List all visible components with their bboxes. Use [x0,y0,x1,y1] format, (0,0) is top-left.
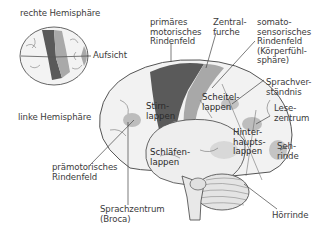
label-left-hemisphere: linke Hemisphäre [18,113,91,123]
label-view-top: Aufsicht [93,51,127,61]
label-speech-comprehension: Sprachver- ständnis [266,78,311,97]
label-central-sulcus: Zentral- furche [213,18,246,37]
label-right-hemisphere: rechte Hemisphäre [20,9,100,19]
label-temporal-lobe: Schläfen- lappen [150,148,190,167]
label-broca-area: Sprachzentrum (Broca) [100,205,165,224]
label-visual-cortex: Seh- rinde [277,142,299,161]
label-parietal-lobe: Scheitel- lappen [202,93,239,112]
label-somatosensory-cortex: somato- sensorisches Rindenfeld (Körperf… [257,18,311,66]
label-auditory-cortex: Hörrinde [272,211,308,221]
label-frontal-lobe: Stirn- lappen [146,102,175,121]
label-primary-motor-cortex: primäres motorisches Rindenfeld [150,18,202,47]
label-occipital-lobe: Hinter- haupts- lappen [233,128,266,157]
label-premotor-cortex: prämotorisches Rindenfeld [52,163,117,182]
top-view-brain [20,27,88,85]
label-reading-center: Lese- zentrum [274,104,309,123]
